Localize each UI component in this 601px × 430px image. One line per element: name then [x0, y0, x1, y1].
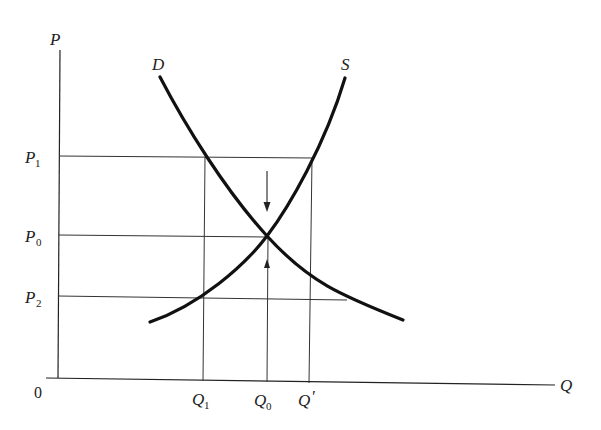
svg-text:': ' — [311, 387, 315, 406]
demand-curve — [160, 77, 403, 320]
price-label-p0: P 0 — [24, 227, 42, 248]
quantity-label-q1: Q 1 — [192, 390, 210, 411]
quantity-label-q0: Q 0 — [254, 391, 272, 412]
svg-text:0: 0 — [266, 400, 272, 412]
svg-text:Q: Q — [298, 391, 310, 410]
price-label-p1: P 1 — [24, 148, 41, 169]
supply-label: S — [341, 55, 350, 74]
q1-line — [203, 157, 205, 381]
p0-line — [59, 235, 267, 237]
svg-text:Q: Q — [192, 390, 204, 409]
x-axis — [46, 378, 555, 385]
demand-label: D — [151, 55, 165, 74]
qprime-line — [309, 158, 312, 383]
q0-line — [267, 237, 268, 382]
svg-text:1: 1 — [204, 399, 210, 411]
p1-line — [59, 156, 313, 158]
svg-text:2: 2 — [36, 297, 42, 309]
svg-text:P: P — [24, 288, 35, 307]
supply-demand-diagram: P Q 0 D S P 1 P 0 P 2 Q 1 Q 0 Q ' — [0, 0, 601, 430]
quantity-label-qprime: Q ' — [298, 387, 315, 410]
y-axis — [58, 50, 60, 378]
svg-text:P: P — [24, 148, 35, 167]
price-label-p2: P 2 — [24, 288, 42, 309]
svg-text:P: P — [24, 227, 35, 246]
down-arrow-icon — [264, 171, 271, 212]
y-axis-label: P — [49, 30, 60, 49]
svg-text:Q: Q — [254, 391, 266, 410]
svg-text:1: 1 — [35, 157, 41, 169]
up-arrow-icon — [264, 259, 270, 268]
x-axis-label: Q — [560, 376, 572, 395]
svg-text:0: 0 — [36, 236, 42, 248]
axes — [46, 50, 555, 385]
origin-label: 0 — [34, 384, 42, 401]
